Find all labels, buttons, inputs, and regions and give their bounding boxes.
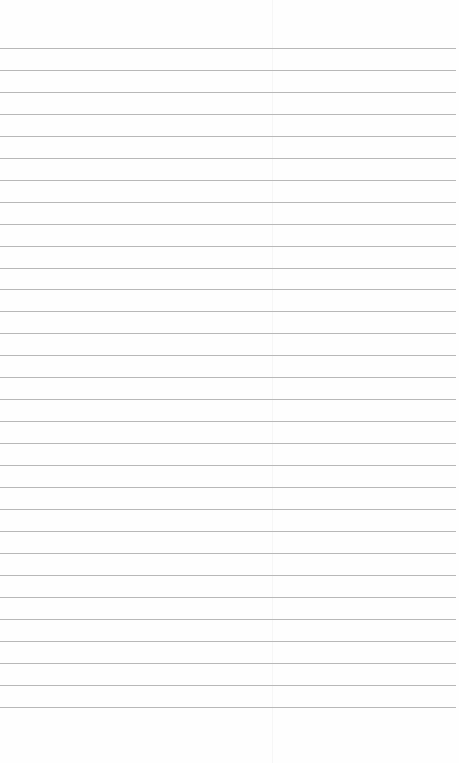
ruled-line — [0, 641, 456, 642]
ruled-line — [0, 377, 456, 378]
ruled-line — [0, 399, 456, 400]
ruled-line — [0, 509, 456, 510]
ruled-line — [0, 70, 456, 71]
ruled-line — [0, 268, 456, 269]
ruled-line — [0, 355, 456, 356]
ruled-line — [0, 443, 456, 444]
ruled-line — [0, 311, 456, 312]
ruled-line — [0, 597, 456, 598]
ruled-line — [0, 180, 456, 181]
ruled-line — [0, 421, 456, 422]
ruled-line — [0, 531, 456, 532]
ruled-line — [0, 663, 456, 664]
ruled-line — [0, 224, 456, 225]
ruled-line — [0, 92, 456, 93]
ruled-line — [0, 202, 456, 203]
ruled-line — [0, 158, 456, 159]
ruled-line — [0, 685, 456, 686]
ruled-line — [0, 553, 456, 554]
ruled-line — [0, 707, 456, 708]
ruled-line — [0, 575, 456, 576]
ruled-line — [0, 487, 456, 488]
lined-paper — [0, 0, 459, 763]
ruled-line — [0, 246, 456, 247]
ruled-line — [0, 333, 456, 334]
ruled-line — [0, 619, 456, 620]
ruled-line — [0, 48, 456, 49]
ruled-line — [0, 136, 456, 137]
ruled-line — [0, 289, 456, 290]
ruled-line — [0, 465, 456, 466]
ruled-line — [0, 114, 456, 115]
